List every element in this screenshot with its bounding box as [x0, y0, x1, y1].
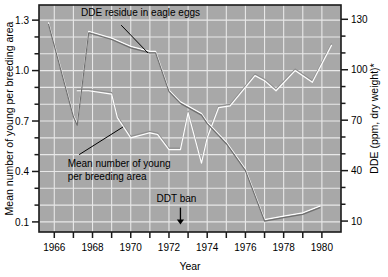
bottom-axis-ticks	[54, 232, 322, 238]
right-axis-title: DDE (ppm, dry weight)*	[368, 63, 380, 173]
ddt-ban-label-text: DDT ban	[157, 193, 197, 204]
chart-figure: 0.10.40.71.01.3 104070100130 19661968197…	[0, 0, 388, 277]
mean-young-label-line2: per breeding area	[68, 171, 147, 182]
left-axis-tick-labels: 0.10.40.71.01.3	[15, 15, 29, 228]
x-axis-tick-label: 1968	[81, 242, 104, 253]
mean-young-label-line1: Mean number of young	[68, 158, 171, 169]
dual-axis-line-chart: 0.10.40.71.01.3 104070100130 19661968197…	[0, 0, 388, 277]
right-axis-tick-label: 70	[351, 115, 363, 126]
left-axis-tick-label: 0.1	[15, 217, 29, 228]
left-axis-tick-label: 0.4	[15, 166, 29, 177]
x-axis-tick-label: 1978	[273, 242, 296, 253]
dde-residue-label-text: DDE residue in eagle eggs	[81, 7, 200, 18]
bottom-axis-tick-labels: 19661968197019721974197619781980	[43, 242, 333, 253]
right-axis-tick-labels: 104070100130	[351, 14, 368, 227]
right-axis-tick-label: 130	[351, 14, 368, 25]
right-axis-tick-label: 40	[351, 165, 363, 176]
left-axis-tick-label: 1.0	[15, 65, 29, 76]
left-axis-tick-label: 0.7	[15, 116, 29, 127]
right-axis-ticks	[341, 19, 348, 221]
left-axis-ticks	[32, 20, 39, 222]
x-axis-tick-label: 1974	[196, 242, 219, 253]
x-axis-tick-label: 1966	[43, 242, 66, 253]
x-axis-tick-label: 1972	[158, 242, 181, 253]
x-axis-tick-label: 1976	[234, 242, 257, 253]
left-axis-title: Mean number of young per breeding area	[3, 21, 15, 215]
right-axis-tick-label: 10	[351, 216, 363, 227]
left-axis-tick-label: 1.3	[15, 15, 29, 26]
x-axis-tick-label: 1970	[120, 242, 143, 253]
x-axis-title: Year	[179, 260, 201, 272]
x-axis-tick-label: 1980	[311, 242, 334, 253]
right-axis-tick-label: 100	[351, 64, 368, 75]
